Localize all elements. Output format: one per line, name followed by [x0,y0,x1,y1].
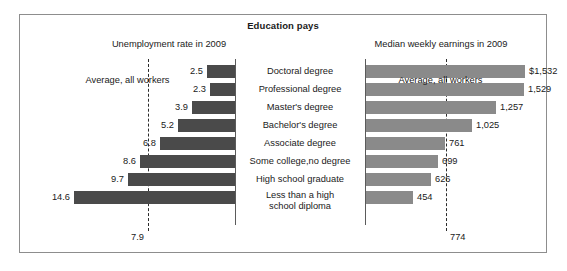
panel-heading-earnings: Median weekly earnings in 2009 [338,39,544,49]
chart-row: 6.8Associate degree761 [20,135,548,153]
plot-area: 2.5Doctoral degree$1,5322.3Professional … [20,59,548,254]
bar-unemployment [178,119,235,132]
bar-unemployment [128,173,235,186]
category-label: Some college,no degree [237,153,363,170]
bar-unemployment [160,137,235,150]
chart-row: 14.6Less than a highschool diploma454 [20,189,548,211]
value-label-unemployment: 6.8 [143,137,156,150]
bar-rows: 2.5Doctoral degree$1,5322.3Professional … [20,63,548,211]
page-title: Education pays [20,20,546,31]
bar-earnings [366,137,445,150]
value-label-earnings: 1,025 [476,119,499,132]
bar-earnings [366,173,431,186]
value-label-earnings: 699 [442,155,458,168]
bar-earnings [366,155,438,168]
chart-row: 8.6Some college,no degree699 [20,153,548,171]
bar-unemployment [140,155,235,168]
category-label: Master's degree [237,99,363,116]
bar-unemployment [192,101,235,114]
bar-earnings [366,191,413,204]
category-label: High school graduate [237,171,363,188]
value-label-unemployment: 14.6 [52,191,70,204]
value-label-unemployment: 8.6 [123,155,136,168]
value-label-unemployment: 5.2 [161,119,174,132]
category-label: Bachelor's degree [237,117,363,134]
bar-earnings [366,101,496,114]
chart-row: 9.7High school graduate626 [20,171,548,189]
average-caption-unemployment: Average, all workers [25,75,230,85]
chart-row: 5.2Bachelor's degree1,025 [20,117,548,135]
value-label-earnings: 1,257 [500,101,523,114]
chart-figure: Education pays Unemployment rate in 2009… [19,14,547,253]
average-value-unemployment: 7.9 [120,231,144,244]
panel-heading-unemployment: Unemployment rate in 2009 [66,39,272,49]
value-label-unemployment: 3.9 [175,101,188,114]
average-row: 7.9 774 [20,231,548,244]
value-label-earnings: 761 [449,137,465,150]
average-value-earnings: 774 [450,231,466,244]
value-label-unemployment: 9.7 [111,173,124,186]
bar-earnings [366,119,472,132]
category-label: Less than a highschool diploma [237,190,363,212]
chart-row: 3.9Master's degree1,257 [20,99,548,117]
bar-unemployment [74,191,235,204]
value-label-earnings: 626 [435,173,451,186]
value-label-earnings: 454 [417,191,433,204]
category-label: Associate degree [237,135,363,152]
average-caption-earnings: Average, all workers [338,75,543,85]
